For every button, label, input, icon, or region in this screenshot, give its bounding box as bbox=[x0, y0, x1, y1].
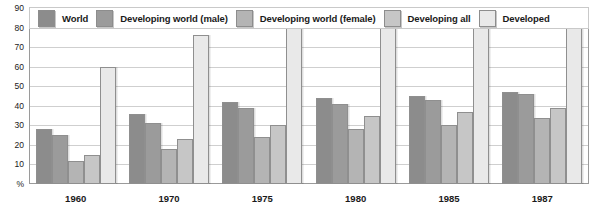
legend-item[interactable]: World bbox=[30, 8, 88, 28]
legend-item-label: Developing world (female) bbox=[260, 13, 376, 24]
y-axis-tick-label: 60 bbox=[15, 62, 24, 72]
bar bbox=[518, 94, 534, 184]
chart-title-strip bbox=[0, 0, 595, 5]
bar bbox=[36, 129, 52, 184]
legend-item-label: Developing all bbox=[408, 13, 471, 24]
bar bbox=[502, 92, 518, 184]
legend-swatch-icon bbox=[479, 10, 496, 27]
chart-legend: WorldDeveloping world (male)Developing w… bbox=[29, 7, 589, 29]
y-axis-tick-label: 70 bbox=[15, 42, 24, 52]
x-axis-tick-label: 1987 bbox=[496, 186, 589, 212]
y-axis-tick-label: 40 bbox=[15, 101, 24, 111]
legend-item[interactable]: Developing all bbox=[376, 8, 471, 28]
legend-swatch-icon bbox=[38, 10, 55, 27]
bar bbox=[52, 135, 68, 184]
legend-swatch-icon bbox=[236, 10, 253, 27]
y-axis-tick-label: 30 bbox=[15, 120, 24, 130]
bar-group bbox=[309, 8, 402, 184]
bar bbox=[425, 100, 441, 184]
y-axis-tick-label: 10 bbox=[15, 159, 24, 169]
bar bbox=[380, 18, 396, 184]
bar-group bbox=[29, 8, 122, 184]
bar bbox=[193, 35, 209, 184]
legend-item-label: World bbox=[62, 13, 88, 24]
x-axis-tick-label: 1985 bbox=[402, 186, 495, 212]
bar bbox=[441, 125, 457, 184]
bar bbox=[84, 155, 100, 184]
legend-item-label: Developing world (male) bbox=[120, 13, 228, 24]
bar bbox=[100, 67, 116, 184]
bar bbox=[129, 114, 145, 184]
bar bbox=[332, 104, 348, 184]
x-axis-tick-label: 1980 bbox=[309, 186, 402, 212]
legend-item[interactable]: Developing world (female) bbox=[228, 8, 376, 28]
legend-item-label: Developed bbox=[503, 13, 550, 24]
bar-chart: %102030405060708090 WorldDeveloping worl… bbox=[0, 0, 595, 217]
bar-group bbox=[496, 8, 589, 184]
y-axis-tick-label: 80 bbox=[15, 23, 24, 33]
legend-swatch-icon bbox=[384, 10, 401, 27]
x-axis-tick-label: 1975 bbox=[216, 186, 309, 212]
bar bbox=[457, 112, 473, 184]
bars-layer bbox=[29, 8, 589, 184]
bar bbox=[409, 96, 425, 184]
y-axis-labels: %102030405060708090 bbox=[0, 8, 27, 184]
y-axis-tick-label: 50 bbox=[15, 81, 24, 91]
bar-group bbox=[216, 8, 309, 184]
bar bbox=[222, 102, 238, 184]
bar bbox=[566, 8, 582, 184]
bar bbox=[145, 123, 161, 184]
y-axis-tick-label: 20 bbox=[15, 140, 24, 150]
bar bbox=[68, 161, 84, 184]
bar-group bbox=[402, 8, 495, 184]
bar bbox=[316, 98, 332, 184]
bar bbox=[238, 108, 254, 184]
legend-swatch-icon bbox=[96, 10, 113, 27]
bar bbox=[473, 10, 489, 184]
legend-item[interactable]: Developing world (male) bbox=[88, 8, 228, 28]
bar bbox=[177, 139, 193, 184]
bar-group bbox=[122, 8, 215, 184]
x-axis-tick-label: 1970 bbox=[122, 186, 215, 212]
bar bbox=[270, 125, 286, 184]
legend-item[interactable]: Developed bbox=[471, 8, 550, 28]
bar bbox=[254, 137, 270, 184]
bar bbox=[550, 108, 566, 184]
y-axis-tick-label: 90 bbox=[15, 3, 24, 13]
y-axis-tick-label: % bbox=[16, 179, 24, 189]
x-axis-labels: 196019701975198019851987 bbox=[29, 186, 589, 212]
bar bbox=[286, 18, 302, 184]
bar bbox=[534, 118, 550, 184]
x-axis-tick-label: 1960 bbox=[29, 186, 122, 212]
bar bbox=[348, 129, 364, 184]
bar bbox=[161, 149, 177, 184]
bar bbox=[364, 116, 380, 184]
